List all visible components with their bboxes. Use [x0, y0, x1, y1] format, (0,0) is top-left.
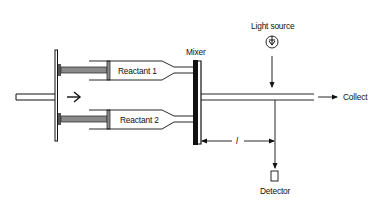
- label-collect: Collect: [343, 91, 367, 102]
- light-source-icon: [266, 36, 278, 87]
- label-distance: l: [236, 135, 238, 146]
- label-light-source: Light source: [251, 20, 294, 31]
- label-detector: Detector: [260, 185, 290, 196]
- drive-rod: [16, 94, 55, 100]
- push-arrow-icon: [67, 92, 80, 102]
- detector-icon: [271, 100, 278, 181]
- drive-plate: [55, 50, 58, 141]
- stopped-flow-diagram: Reactant 1 Reactant 2 Mixer Light source…: [0, 0, 379, 217]
- label-mixer: Mixer: [186, 46, 206, 57]
- label-reactant-1: Reactant 1: [118, 65, 157, 76]
- label-reactant-2: Reactant 2: [120, 114, 159, 125]
- observation-tube: [201, 94, 314, 100]
- diagram-canvas: [0, 0, 379, 217]
- mixer-block: [193, 60, 201, 145]
